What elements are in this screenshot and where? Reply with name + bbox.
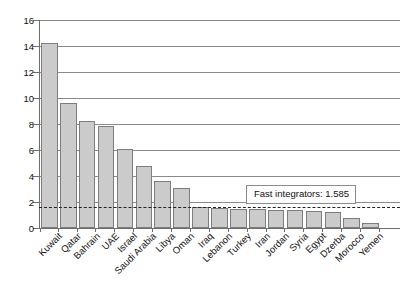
y-tick-label: 12	[10, 68, 34, 78]
x-axis-line	[39, 228, 400, 229]
bar	[249, 209, 266, 228]
bar	[325, 212, 342, 228]
fast-integrators-annotation: Fast integrators: 1.585	[246, 185, 356, 203]
y-tick-label: 6	[10, 146, 34, 156]
bar	[268, 210, 285, 228]
bar	[60, 103, 77, 228]
bar	[117, 149, 134, 228]
y-tick-label: 14	[10, 42, 34, 52]
bar	[41, 43, 58, 228]
bar	[343, 218, 360, 228]
bar	[230, 209, 247, 229]
bar	[287, 210, 304, 228]
bar-chart: 0246810121416 Fast integrators: 1.585 Ku…	[0, 0, 413, 300]
bar	[306, 211, 323, 228]
bar	[136, 166, 153, 228]
y-tick-label: 2	[10, 198, 34, 208]
y-tick-label: 8	[10, 120, 34, 130]
bar	[154, 181, 171, 228]
bar	[192, 207, 209, 228]
bar	[211, 208, 228, 228]
y-tick-label: 16	[10, 16, 34, 26]
bar	[79, 121, 96, 228]
y-tick-label: 0	[10, 224, 34, 234]
bar	[98, 126, 115, 228]
x-axis-labels: KuwaitQatarBahrainUAEIsraelSaudi ArabiaL…	[39, 231, 413, 300]
y-tick-label: 10	[10, 94, 34, 104]
threshold-line	[39, 207, 400, 208]
bar	[362, 223, 379, 228]
y-tick-label: 4	[10, 172, 34, 182]
